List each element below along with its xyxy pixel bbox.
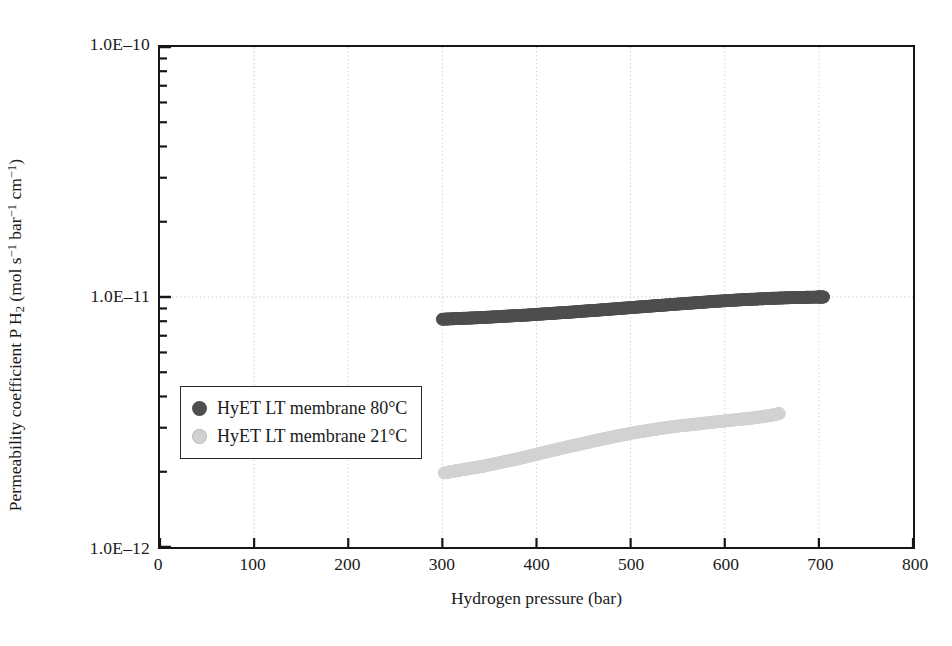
y-axis-title: Permeability coefficient P H2 (mol s−1 b… (0, 0, 34, 646)
x-tick-label: 400 (523, 556, 549, 574)
legend-item-21c: HyET LT membrane 21°C (192, 422, 407, 450)
y-axis-tick-labels: 1.0E–121.0E–111.0E–10 (54, 45, 150, 549)
y-axis-title-exp-3: −1 (5, 165, 19, 178)
legend-item-80c: HyET LT membrane 80°C (192, 394, 407, 422)
y-tick-label: 1.0E–11 (58, 288, 150, 306)
x-tick-label: 600 (713, 556, 739, 574)
y-axis-title-exp-1: −1 (5, 244, 19, 257)
y-tick-label: 1.0E–12 (58, 540, 150, 558)
y-axis-title-prefix: Permeability coefficient P H (6, 312, 26, 511)
x-tick-label: 800 (902, 556, 928, 574)
y-axis-title-subscript: 2 (14, 306, 28, 312)
x-tick-label: 0 (154, 556, 163, 574)
legend-marker-80c (192, 401, 207, 416)
x-tick-label: 300 (429, 556, 455, 574)
y-axis-title-units-close: ) (6, 159, 26, 165)
chart-figure: Permeability coefficient P H2 (mol s−1 b… (0, 0, 952, 646)
y-tick-label: 1.0E–10 (58, 36, 150, 54)
x-tick-label: 500 (618, 556, 644, 574)
y-axis-title-units-mid: bar (6, 217, 26, 244)
y-axis-title-exp-2: −1 (5, 204, 19, 217)
y-axis-title-units-open: (mol s (6, 257, 26, 306)
y-axis-title-units-mid-2: cm (6, 178, 26, 204)
x-axis-tick-labels: 0100200300400500600700800 (158, 556, 915, 586)
x-tick-label: 100 (240, 556, 266, 574)
x-tick-label: 700 (807, 556, 833, 574)
legend-marker-21c (192, 429, 207, 444)
plot-area (158, 45, 915, 549)
data-series-layer (160, 47, 913, 547)
legend-label-21c: HyET LT membrane 21°C (217, 427, 407, 445)
x-axis-title: Hydrogen pressure (bar) (158, 588, 915, 609)
chart-legend: HyET LT membrane 80°C HyET LT membrane 2… (180, 386, 422, 459)
series-80c (436, 291, 830, 326)
x-tick-label: 200 (334, 556, 360, 574)
legend-label-80c: HyET LT membrane 80°C (217, 399, 407, 417)
series-21c (438, 407, 786, 479)
